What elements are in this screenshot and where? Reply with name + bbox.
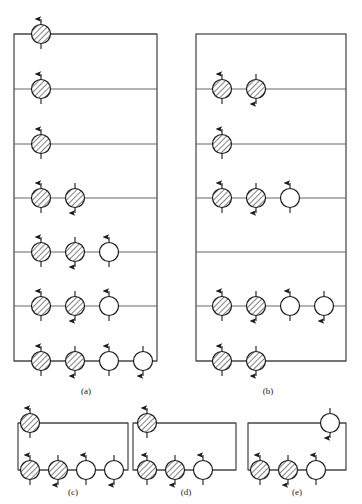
state-marker[interactable] bbox=[315, 291, 334, 321]
panel-caption-e: (e) bbox=[292, 487, 302, 497]
occupied-state-circle[interactable] bbox=[21, 461, 40, 480]
state-marker[interactable] bbox=[100, 346, 119, 376]
state-marker[interactable] bbox=[247, 183, 266, 213]
state-marker[interactable] bbox=[66, 237, 85, 267]
state-marker[interactable] bbox=[21, 408, 40, 438]
occupied-state-circle[interactable] bbox=[213, 352, 232, 371]
occupied-state-circle[interactable] bbox=[32, 352, 51, 371]
state-marker[interactable] bbox=[213, 291, 232, 321]
energy-level-row bbox=[133, 455, 236, 485]
state-marker[interactable] bbox=[66, 183, 85, 213]
orbital-occupation-diagram bbox=[0, 0, 362, 504]
occupied-state-circle[interactable] bbox=[66, 352, 85, 371]
figure-root: (a)(b)(c)(d)(e) bbox=[0, 0, 362, 504]
energy-level-row bbox=[14, 237, 157, 267]
empty-state-circle[interactable] bbox=[105, 461, 124, 480]
state-marker[interactable] bbox=[32, 74, 51, 104]
state-marker[interactable] bbox=[32, 19, 51, 49]
state-marker[interactable] bbox=[247, 346, 266, 376]
state-marker[interactable] bbox=[49, 455, 68, 485]
occupied-state-circle[interactable] bbox=[247, 80, 266, 99]
state-marker[interactable] bbox=[100, 237, 119, 267]
occupied-state-circle[interactable] bbox=[138, 414, 157, 433]
state-marker[interactable] bbox=[32, 237, 51, 267]
occupied-state-circle[interactable] bbox=[49, 461, 68, 480]
state-marker[interactable] bbox=[32, 291, 51, 321]
occupied-state-circle[interactable] bbox=[66, 297, 85, 316]
panel-a bbox=[14, 19, 157, 376]
state-marker[interactable] bbox=[213, 346, 232, 376]
state-marker[interactable] bbox=[213, 183, 232, 213]
state-marker[interactable] bbox=[251, 455, 270, 485]
panel-caption-c: (c) bbox=[68, 487, 78, 497]
occupied-state-circle[interactable] bbox=[32, 135, 51, 154]
empty-state-circle[interactable] bbox=[321, 414, 340, 433]
panel-c bbox=[18, 408, 128, 485]
energy-level-row bbox=[196, 129, 346, 159]
empty-state-circle[interactable] bbox=[307, 461, 326, 480]
state-marker[interactable] bbox=[105, 455, 124, 485]
occupied-state-circle[interactable] bbox=[32, 80, 51, 99]
energy-level-row bbox=[14, 19, 157, 49]
occupied-state-circle[interactable] bbox=[32, 189, 51, 208]
panels-layer bbox=[14, 19, 346, 485]
panel-caption-a: (a) bbox=[81, 386, 91, 396]
empty-state-circle[interactable] bbox=[281, 189, 300, 208]
state-marker[interactable] bbox=[134, 346, 153, 376]
occupied-state-circle[interactable] bbox=[32, 297, 51, 316]
empty-state-circle[interactable] bbox=[100, 243, 119, 262]
empty-state-circle[interactable] bbox=[194, 461, 213, 480]
occupied-state-circle[interactable] bbox=[66, 243, 85, 262]
occupied-state-circle[interactable] bbox=[213, 297, 232, 316]
state-marker[interactable] bbox=[66, 346, 85, 376]
occupied-state-circle[interactable] bbox=[32, 243, 51, 262]
energy-level-row bbox=[14, 291, 157, 321]
occupied-state-circle[interactable] bbox=[247, 189, 266, 208]
empty-state-circle[interactable] bbox=[100, 297, 119, 316]
state-marker[interactable] bbox=[247, 291, 266, 321]
empty-state-circle[interactable] bbox=[100, 352, 119, 371]
state-marker[interactable] bbox=[66, 291, 85, 321]
empty-state-circle[interactable] bbox=[281, 297, 300, 316]
occupied-state-circle[interactable] bbox=[138, 461, 157, 480]
occupied-state-circle[interactable] bbox=[32, 25, 51, 44]
state-marker[interactable] bbox=[32, 183, 51, 213]
occupied-state-circle[interactable] bbox=[166, 461, 185, 480]
panel-caption-d: (d) bbox=[181, 487, 192, 497]
state-marker[interactable] bbox=[321, 408, 340, 438]
occupied-state-circle[interactable] bbox=[21, 414, 40, 433]
state-marker[interactable] bbox=[281, 291, 300, 321]
state-marker[interactable] bbox=[247, 74, 266, 104]
occupied-state-circle[interactable] bbox=[213, 189, 232, 208]
state-marker[interactable] bbox=[21, 455, 40, 485]
state-marker[interactable] bbox=[213, 129, 232, 159]
state-marker[interactable] bbox=[213, 74, 232, 104]
state-marker[interactable] bbox=[279, 455, 298, 485]
energy-level-row bbox=[196, 183, 346, 213]
state-marker[interactable] bbox=[32, 129, 51, 159]
empty-state-circle[interactable] bbox=[77, 461, 96, 480]
state-marker[interactable] bbox=[281, 183, 300, 213]
state-marker[interactable] bbox=[138, 408, 157, 438]
state-marker[interactable] bbox=[100, 291, 119, 321]
state-marker[interactable] bbox=[138, 455, 157, 485]
occupied-state-circle[interactable] bbox=[279, 461, 298, 480]
energy-level-row bbox=[14, 346, 157, 376]
empty-state-circle[interactable] bbox=[134, 352, 153, 371]
occupied-state-circle[interactable] bbox=[251, 461, 270, 480]
state-marker[interactable] bbox=[77, 455, 96, 485]
state-marker[interactable] bbox=[194, 455, 213, 485]
occupied-state-circle[interactable] bbox=[213, 80, 232, 99]
energy-level-row bbox=[196, 291, 346, 321]
state-marker[interactable] bbox=[307, 455, 326, 485]
energy-level-row bbox=[248, 455, 346, 485]
occupied-state-circle[interactable] bbox=[247, 352, 266, 371]
energy-level-row bbox=[196, 346, 346, 376]
occupied-state-circle[interactable] bbox=[66, 189, 85, 208]
state-marker[interactable] bbox=[166, 455, 185, 485]
occupied-state-circle[interactable] bbox=[213, 135, 232, 154]
state-marker[interactable] bbox=[32, 346, 51, 376]
energy-level-row bbox=[133, 408, 236, 438]
empty-state-circle[interactable] bbox=[315, 297, 334, 316]
occupied-state-circle[interactable] bbox=[247, 297, 266, 316]
